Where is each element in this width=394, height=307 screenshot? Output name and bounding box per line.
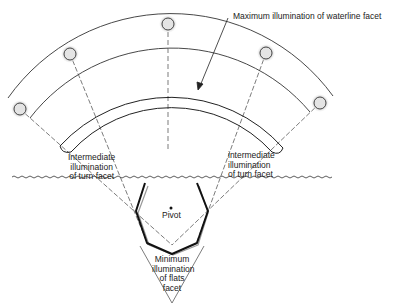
light-sources [11, 15, 329, 118]
light-source-icon [260, 47, 272, 59]
waterline [12, 176, 332, 178]
label-max-waterline: Maximum illumination of waterline facet [233, 12, 381, 22]
waterline-facet-band [60, 97, 283, 153]
light-source-icon [64, 48, 76, 60]
label-right-intermediate: intermediate illumination of turn facet [228, 151, 275, 180]
max-illumination-arrow [197, 18, 228, 90]
light-source-icon [162, 18, 174, 30]
label-pivot: Pivot [162, 211, 181, 221]
label-minimum: Minimum illumination of flats facet [152, 255, 192, 293]
label-left-intermediate: Intermediate illumination of turn facet [68, 153, 115, 182]
light-source-icon [314, 97, 326, 109]
light-source-icon [14, 103, 26, 115]
diagram-canvas [0, 0, 394, 307]
